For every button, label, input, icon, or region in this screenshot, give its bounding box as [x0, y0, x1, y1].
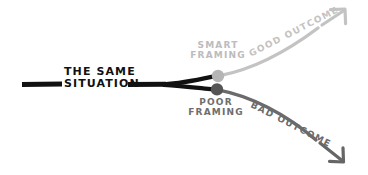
the-same-situation-label: THE SAMESITUATION — [64, 66, 140, 90]
poor-framing-label: POORFRAMING — [184, 98, 248, 117]
smart-framing-label: SMARTFRAMING — [186, 41, 250, 60]
poor-framing-node[interactable] — [211, 83, 223, 95]
diagram-canvas: THE SAMESITUATION SMARTFRAMING POORFRAMI… — [0, 0, 368, 175]
smart-framing-line-1: SMART — [197, 40, 238, 50]
fork-branch-lower — [164, 85, 213, 90]
poor-framing-line-2: FRAMING — [188, 107, 244, 117]
poor-framing-line-1: POOR — [199, 97, 233, 107]
trunk-line-left — [22, 84, 62, 85]
smart-framing-line-2: FRAMING — [190, 50, 246, 60]
smart-framing-node[interactable] — [212, 70, 224, 82]
situation-line-2: SITUATION — [64, 77, 140, 90]
